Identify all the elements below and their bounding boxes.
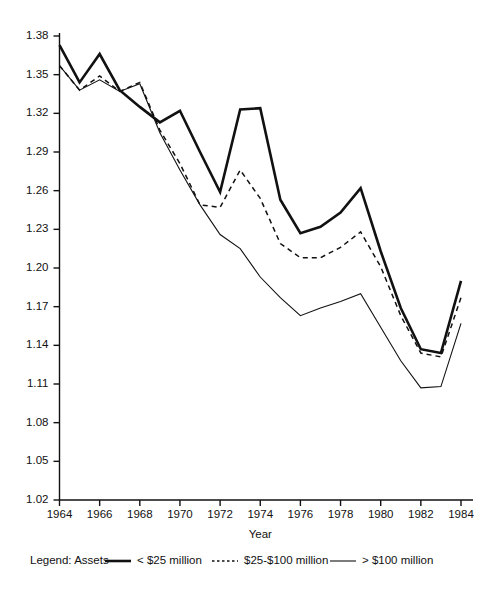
y-tick-label: 1.08 — [26, 416, 48, 428]
y-tick-label: 1.26 — [26, 184, 48, 196]
y-tick-label: 1.23 — [26, 222, 48, 234]
x-tick-label: 1968 — [127, 508, 153, 520]
figure-container: 1.021.051.081.111.141.171.201.231.261.29… — [0, 0, 477, 592]
y-tick-label: 1.14 — [26, 338, 49, 350]
x-tick-label: 1974 — [247, 508, 273, 520]
line-chart: 1.021.051.081.111.141.171.201.231.261.29… — [0, 0, 477, 592]
y-tick-label: 1.17 — [26, 300, 48, 312]
x-tick-label: 1966 — [87, 508, 113, 520]
x-tick-label: 1972 — [207, 508, 233, 520]
y-tick-label: 1.11 — [27, 377, 49, 389]
x-tick-label: 1964 — [47, 508, 73, 520]
y-tick-label: 1.02 — [26, 493, 48, 505]
x-tick-label: 1982 — [408, 508, 434, 520]
y-tick-label: 1.20 — [26, 261, 48, 273]
y-tick-label: 1.32 — [26, 106, 48, 118]
legend-label-2: > $100 million — [362, 554, 433, 566]
x-tick-label: 1978 — [328, 508, 354, 520]
y-tick-label: 1.29 — [26, 145, 48, 157]
x-axis-title: Year — [249, 528, 272, 540]
x-tick-label: 1976 — [288, 508, 314, 520]
x-tick-label: 1984 — [448, 508, 474, 520]
y-tick-label: 1.05 — [26, 454, 48, 466]
legend-label-0: < $25 million — [137, 554, 202, 566]
x-tick-label: 1970 — [167, 508, 193, 520]
legend-title: Legend: Assets — [30, 554, 109, 566]
legend-label-1: $25-$100 million — [244, 554, 328, 566]
y-tick-label: 1.35 — [26, 68, 48, 80]
y-tick-label: 1.38 — [26, 29, 48, 41]
x-tick-label: 1980 — [368, 508, 394, 520]
